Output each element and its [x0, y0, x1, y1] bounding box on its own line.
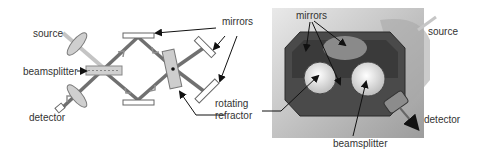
label-beamsplitter: beamsplitter [23, 66, 77, 77]
label-refractor: refractor [215, 110, 252, 121]
photo-label-beamsplitter: beamsplitter [333, 138, 387, 149]
interferometer-schematic [55, 28, 237, 115]
device-photo [262, 8, 436, 138]
label-source: source [33, 28, 63, 39]
photo-label-detector: detector [424, 114, 460, 125]
label-rotating: rotating [215, 98, 248, 109]
label-mirrors: mirrors [222, 16, 253, 27]
mirror-bottom-icon [123, 100, 154, 105]
photo-label-source: source [428, 26, 458, 37]
mirror-top-icon [123, 33, 154, 38]
label-detector: detector [29, 112, 65, 123]
photo-label-mirrors: mirrors [296, 10, 327, 21]
rotating-refractor-disc [304, 62, 336, 94]
refractor-pivot-icon [171, 67, 175, 71]
beamsplitter-disc [351, 62, 385, 96]
mirror-right-upper-icon [194, 36, 215, 57]
mirror-top-photo [323, 36, 367, 60]
